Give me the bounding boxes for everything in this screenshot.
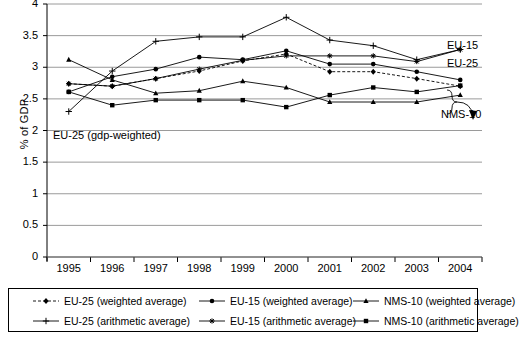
x-tick-label: 1997 — [134, 262, 178, 274]
annotation-eu25: EU-25 — [447, 57, 478, 69]
marker-square — [241, 98, 245, 102]
y-tick-label: 1 — [10, 187, 38, 199]
legend-item[interactable]: NMS-10 (arithmetic average) — [351, 311, 519, 331]
marker-circle — [458, 78, 463, 83]
x-tick-label: 1998 — [177, 262, 221, 274]
legend-symbol-circle — [197, 294, 227, 308]
x-tick-label: 2003 — [395, 262, 439, 274]
marker-square — [458, 83, 462, 87]
legend-symbol-diamond — [31, 294, 61, 308]
legend-item[interactable]: EU-15 (weighted average) — [197, 291, 353, 311]
marker-circle — [153, 67, 158, 72]
legend-symbol-star — [197, 314, 227, 328]
marker-square — [110, 103, 114, 107]
legend-row: EU-25 (arithmetic average)EU-15 (arithme… — [9, 311, 477, 331]
marker-diamond — [371, 69, 376, 75]
series-line — [69, 54, 461, 86]
series-line — [69, 60, 461, 102]
series-line — [69, 86, 461, 108]
y-tick-label: 2 — [10, 124, 38, 136]
marker-square — [67, 90, 71, 94]
annotation-nms10: NMS-10 — [441, 108, 481, 120]
series-6 — [67, 83, 463, 109]
series-line — [69, 51, 461, 92]
marker-circle — [284, 49, 289, 54]
legend-symbol-square — [351, 314, 381, 328]
x-tick-label: 2004 — [438, 262, 482, 274]
x-tick-label: 1995 — [47, 262, 91, 274]
marker-triangle — [458, 92, 463, 97]
legend-item[interactable]: NMS-10 (weighted average) — [351, 291, 515, 311]
legend-item-label: NMS-10 (weighted average) — [381, 295, 515, 307]
marker-triangle — [240, 78, 245, 83]
y-tick-label: 1.5 — [10, 155, 38, 167]
legend-item[interactable]: EU-25 (weighted average) — [31, 291, 187, 311]
legend-item[interactable]: EU-25 (arithmetic average) — [31, 311, 190, 331]
marker-square — [284, 105, 288, 109]
marker-square — [328, 93, 332, 97]
legend-item-label: EU-15 (weighted average) — [227, 295, 353, 307]
y-tick-label: 3 — [10, 60, 38, 72]
annotation-gdp-weighted: EU-25 (gdp-weighted) — [53, 129, 161, 141]
y-tick-label: 0 — [10, 250, 38, 262]
x-tick-label: 2002 — [351, 262, 395, 274]
series-line — [69, 17, 461, 111]
marker-circle — [327, 62, 332, 67]
legend-item-label: EU-25 (weighted average) — [61, 295, 187, 307]
x-tick-label: 1999 — [221, 262, 265, 274]
y-tick-label: 4 — [10, 0, 38, 9]
x-tick-label: 2001 — [308, 262, 352, 274]
legend-item[interactable]: EU-15 (arithmetic average) — [197, 311, 356, 331]
legend-row: EU-25 (weighted average)EU-15 (weighted … — [9, 291, 477, 311]
series-4 — [66, 14, 464, 115]
x-tick-label: 2000 — [264, 262, 308, 274]
marker-diamond — [327, 69, 332, 75]
marker-circle — [414, 69, 419, 74]
legend-symbol-triangle — [351, 294, 381, 308]
y-tick-label: 2.5 — [10, 92, 38, 104]
chart-legend: EU-25 (weighted average)EU-15 (weighted … — [8, 288, 478, 332]
marker-triangle — [66, 57, 71, 62]
legend-symbol-plus — [31, 314, 61, 328]
marker-square — [364, 319, 368, 323]
marker-circle — [197, 55, 202, 60]
annotation-eu15: EU-15 — [447, 39, 478, 51]
marker-circle — [210, 299, 215, 304]
series-5 — [66, 47, 463, 89]
y-tick-label: 3.5 — [10, 29, 38, 41]
legend-item-label: EU-25 (arithmetic average) — [61, 315, 190, 327]
marker-square — [415, 90, 419, 94]
marker-diamond — [414, 76, 419, 82]
legend-item-label: NMS-10 (arithmetic average) — [381, 315, 519, 327]
marker-circle — [371, 62, 376, 67]
series-3 — [66, 57, 463, 104]
marker-square — [197, 98, 201, 102]
legend-item-label: EU-15 (arithmetic average) — [227, 315, 356, 327]
x-tick-label: 1996 — [90, 262, 134, 274]
marker-diamond — [43, 298, 48, 304]
y-tick-label: 0.5 — [10, 218, 38, 230]
marker-square — [154, 98, 158, 102]
marker-square — [371, 85, 375, 89]
